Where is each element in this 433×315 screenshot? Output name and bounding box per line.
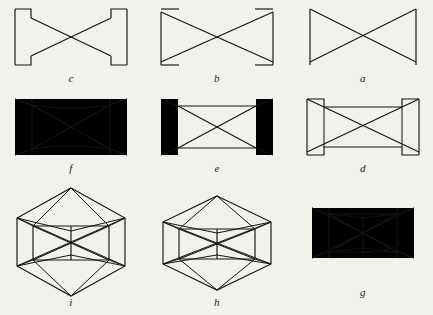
figure-a-drawing (298, 4, 428, 70)
figure-d: d (298, 94, 428, 178)
figure-h-drawing (152, 184, 282, 300)
figure-c: c (6, 4, 136, 88)
figure-d-label: d (298, 162, 428, 174)
figure-e-label: e (152, 162, 282, 174)
figure-i-drawing (6, 184, 136, 300)
figure-g-label: g (298, 286, 428, 298)
figure-c-drawing (6, 4, 136, 70)
figure-g-drawing (298, 196, 428, 286)
figure-b-label: b (152, 72, 282, 84)
figure-e-drawing (152, 94, 282, 160)
figure-f: f (6, 94, 136, 178)
figure-c-label: c (6, 72, 136, 84)
figure-i: i (6, 184, 136, 312)
figure-f-drawing (6, 94, 136, 160)
figure-i-label: i (6, 296, 136, 308)
figure-b-drawing (152, 4, 282, 70)
figure-h: h (152, 184, 282, 312)
figure-b: b (152, 4, 282, 88)
figure-a-label: a (298, 72, 428, 84)
figure-plate: c b a (0, 0, 433, 315)
figure-h-label: h (152, 296, 282, 308)
figure-a: a (298, 4, 428, 88)
figure-g: g (298, 196, 428, 312)
figure-f-label: f (6, 162, 136, 174)
figure-d-drawing (298, 94, 428, 160)
figure-e: e (152, 94, 282, 178)
